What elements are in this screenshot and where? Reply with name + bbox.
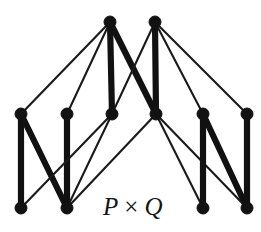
vertex-t2 [149, 16, 161, 28]
label-q: Q [144, 193, 162, 220]
diagram-label: P×Q [102, 193, 162, 220]
edge-t2-m5 [155, 22, 203, 114]
vertex-m6 [241, 108, 253, 120]
vertex-t1 [104, 16, 116, 28]
vertex-m1 [15, 108, 27, 120]
hasse-diagram-figure: P×Q [0, 0, 261, 232]
edge-m5-b4 [203, 114, 247, 208]
vertex-b3 [197, 202, 209, 214]
edge-t2-m4 [155, 22, 156, 114]
edge-t2-m6 [155, 22, 247, 114]
edge-m4-b3 [156, 114, 203, 208]
edge-layer [21, 22, 247, 208]
edge-t1-m2 [67, 22, 110, 114]
hasse-diagram-canvas: P×Q [0, 0, 261, 232]
vertex-layer [15, 16, 253, 214]
edge-m1-b2 [21, 114, 67, 208]
vertex-m5 [197, 108, 209, 120]
label-times-operator: × [124, 193, 138, 220]
vertex-m2 [61, 108, 73, 120]
vertex-m4 [150, 108, 162, 120]
label-p: P [102, 193, 118, 220]
vertex-b4 [241, 202, 253, 214]
vertex-b2 [61, 202, 73, 214]
edge-t1-m3 [110, 22, 112, 114]
edge-t1-m1 [21, 22, 110, 114]
vertex-b1 [15, 202, 27, 214]
vertex-m3 [106, 108, 118, 120]
